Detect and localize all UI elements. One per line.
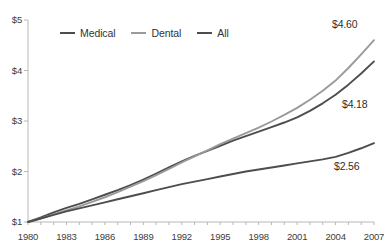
legend-swatch-all: [197, 32, 212, 34]
x-tick-label: 1986: [88, 231, 122, 242]
axis-lines: [28, 20, 374, 222]
y-tick-label: $4: [2, 65, 22, 76]
x-tick-label: 2004: [319, 231, 353, 242]
legend-label-dental: Dental: [151, 27, 181, 39]
x-tick-label: 1998: [242, 231, 276, 242]
x-tick-label: 1983: [49, 231, 83, 242]
legend-item-medical[interactable]: Medical: [60, 27, 115, 39]
series-line-all: [28, 143, 374, 222]
legend-label-medical: Medical: [80, 27, 115, 39]
x-tick-label: 1995: [203, 231, 237, 242]
data-label-all-end: $2.56: [334, 160, 359, 172]
y-axis-ticks: [24, 20, 28, 222]
x-tick-label: 1989: [126, 231, 160, 242]
y-tick-label: $5: [2, 14, 22, 25]
x-tick-label: 1992: [165, 231, 199, 242]
legend-item-dental[interactable]: Dental: [131, 27, 181, 39]
x-tick-label: 1980: [11, 231, 45, 242]
legend-swatch-medical: [60, 32, 75, 34]
legend-item-all[interactable]: All: [197, 27, 228, 39]
y-tick-label: $2: [2, 166, 22, 177]
data-series-group: [28, 40, 374, 222]
legend-swatch-dental: [131, 32, 146, 34]
series-line-medical: [28, 61, 374, 222]
x-tick-label: 2007: [357, 231, 389, 242]
series-line-dental: [28, 40, 374, 222]
legend-label-all: All: [217, 27, 228, 39]
y-tick-label: $3: [2, 115, 22, 126]
x-tick-label: 2001: [280, 231, 314, 242]
data-label-medical-end: $4.18: [342, 98, 367, 110]
y-tick-label: $1: [2, 216, 22, 227]
data-label-dental-end: $4.60: [332, 18, 357, 30]
chart-legend: Medical Dental All: [60, 27, 229, 39]
